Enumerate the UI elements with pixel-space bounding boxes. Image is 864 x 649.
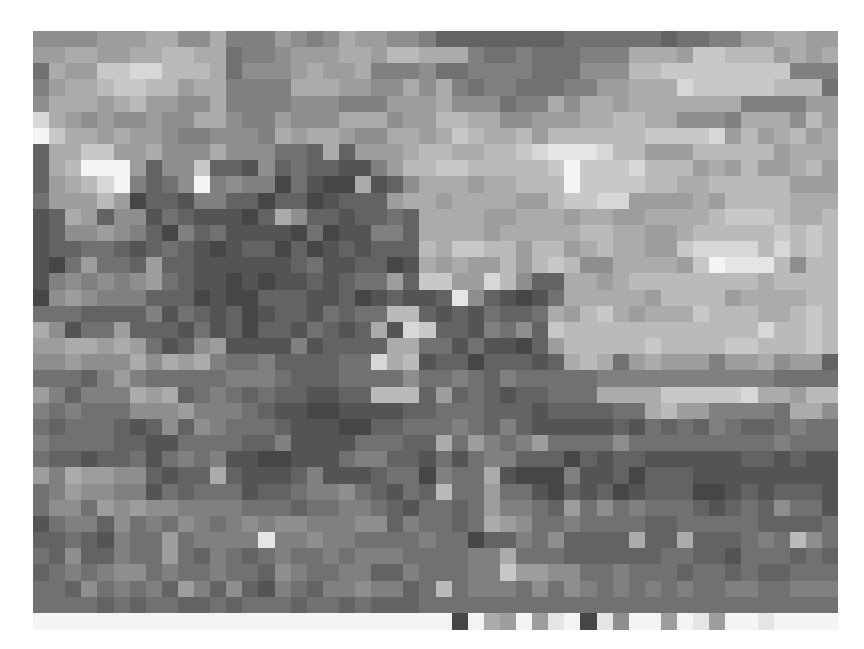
mosaic-cell <box>291 354 307 370</box>
mosaic-cell <box>693 79 709 95</box>
mosaic-cell <box>387 548 403 564</box>
mosaic-cell <box>114 338 130 354</box>
mosaic-cell <box>403 419 419 435</box>
mosaic-cell <box>436 419 452 435</box>
mosaic-cell <box>210 467 226 483</box>
mosaic-cell <box>33 500 49 516</box>
mosaic-cell <box>275 403 291 419</box>
mosaic-cell <box>242 290 258 306</box>
mosaic-cell <box>258 500 274 516</box>
mosaic-cell <box>97 193 113 209</box>
mosaic-cell <box>355 581 371 597</box>
mosaic-cell <box>258 79 274 95</box>
mosaic-cell <box>81 597 97 613</box>
mosaic-cell <box>532 112 548 128</box>
mosaic-cell <box>323 47 339 63</box>
mosaic-cell <box>500 63 516 79</box>
mosaic-cell <box>371 484 387 500</box>
mosaic-cell <box>419 273 435 289</box>
mosaic-cell <box>758 581 774 597</box>
mosaic-cell <box>758 176 774 192</box>
mosaic-cell <box>645 96 661 112</box>
mosaic-cell <box>65 160 81 176</box>
mosaic-cell <box>403 484 419 500</box>
mosaic-cell <box>725 306 741 322</box>
mosaic-cell <box>741 306 757 322</box>
mosaic-cell <box>146 290 162 306</box>
mosaic-cell <box>806 500 822 516</box>
mosaic-cell <box>114 516 130 532</box>
mosaic-cell <box>275 193 291 209</box>
mosaic-cell <box>403 31 419 47</box>
mosaic-cell <box>532 548 548 564</box>
mosaic-cell <box>661 225 677 241</box>
mosaic-cell <box>806 128 822 144</box>
mosaic-cell <box>130 354 146 370</box>
mosaic-cell <box>194 564 210 580</box>
mosaic-cell <box>81 338 97 354</box>
mosaic-cell <box>484 31 500 47</box>
mosaic-cell <box>822 548 838 564</box>
mosaic-cell <box>564 96 580 112</box>
mosaic-cell <box>307 96 323 112</box>
mosaic-cell <box>822 435 838 451</box>
mosaic-cell <box>210 241 226 257</box>
mosaic-cell <box>613 597 629 613</box>
mosaic-cell <box>114 209 130 225</box>
mosaic-cell <box>806 516 822 532</box>
mosaic-cell <box>774 128 790 144</box>
mosaic-cell <box>597 241 613 257</box>
mosaic-cell <box>339 322 355 338</box>
mosaic-cell <box>484 96 500 112</box>
mosaic-cell <box>741 63 757 79</box>
mosaic-cell <box>49 613 65 630</box>
mosaic-cell <box>258 273 274 289</box>
mosaic-cell <box>677 451 693 467</box>
mosaic-cell <box>403 209 419 225</box>
mosaic-cell <box>162 47 178 63</box>
mosaic-cell <box>436 290 452 306</box>
mosaic-cell <box>387 306 403 322</box>
mosaic-cell <box>355 290 371 306</box>
mosaic-cell <box>548 241 564 257</box>
mosaic-cell <box>178 225 194 241</box>
mosaic-cell <box>741 435 757 451</box>
mosaic-cell <box>194 96 210 112</box>
mosaic-cell <box>468 370 484 386</box>
mosaic-cell <box>516 63 532 79</box>
mosaic-cell <box>806 79 822 95</box>
mosaic-cell <box>597 96 613 112</box>
mosaic-cell <box>49 484 65 500</box>
mosaic-cell <box>468 484 484 500</box>
mosaic-cell <box>725 387 741 403</box>
mosaic-cell <box>146 209 162 225</box>
mosaic-cell <box>178 160 194 176</box>
mosaic-cell <box>452 112 468 128</box>
mosaic-cell <box>613 47 629 63</box>
mosaic-cell <box>419 403 435 419</box>
mosaic-cell <box>403 597 419 613</box>
mosaic-cell <box>532 209 548 225</box>
mosaic-cell <box>114 96 130 112</box>
mosaic-cell <box>403 112 419 128</box>
mosaic-cell <box>275 112 291 128</box>
mosaic-cell <box>258 484 274 500</box>
mosaic-cell <box>33 451 49 467</box>
mosaic-cell <box>146 500 162 516</box>
mosaic-cell <box>419 63 435 79</box>
mosaic-cell <box>693 484 709 500</box>
mosaic-cell <box>339 193 355 209</box>
mosaic-cell <box>339 47 355 63</box>
mosaic-cell <box>371 241 387 257</box>
mosaic-cell <box>210 597 226 613</box>
mosaic-cell <box>291 96 307 112</box>
mosaic-cell <box>677 144 693 160</box>
mosaic-cell <box>178 419 194 435</box>
mosaic-cell <box>725 193 741 209</box>
mosaic-cell <box>580 112 596 128</box>
mosaic-cell <box>725 548 741 564</box>
mosaic-cell <box>580 225 596 241</box>
mosaic-cell <box>242 467 258 483</box>
mosaic-cell <box>339 112 355 128</box>
mosaic-cell <box>210 419 226 435</box>
